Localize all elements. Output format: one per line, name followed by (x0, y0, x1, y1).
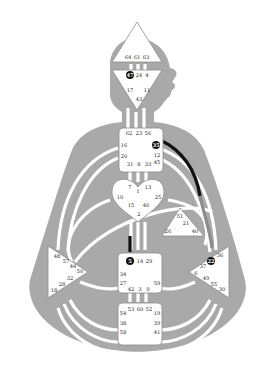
svg-text:5: 5 (128, 258, 132, 264)
svg-text:47: 47 (126, 72, 134, 78)
svg-text:42: 42 (128, 286, 135, 292)
svg-text:36: 36 (217, 252, 224, 258)
svg-text:49: 49 (203, 275, 210, 281)
svg-text:25: 25 (155, 194, 162, 200)
svg-text:21: 21 (183, 220, 190, 226)
svg-text:10: 10 (117, 194, 124, 200)
svg-text:16: 16 (121, 142, 128, 148)
svg-text:28: 28 (59, 281, 66, 287)
head-center[interactable]: 64 61 63 (112, 22, 162, 62)
svg-text:6: 6 (194, 270, 197, 276)
svg-text:51: 51 (177, 213, 184, 219)
svg-text:59: 59 (154, 280, 161, 286)
svg-text:48: 48 (54, 253, 61, 259)
svg-text:15: 15 (128, 202, 135, 208)
svg-text:33: 33 (145, 161, 152, 167)
svg-text:40: 40 (192, 228, 199, 234)
svg-text:11: 11 (144, 87, 151, 93)
svg-text:37: 37 (200, 263, 207, 269)
svg-text:46: 46 (143, 202, 150, 208)
svg-text:60: 60 (137, 306, 144, 312)
svg-text:17: 17 (127, 87, 134, 93)
throat-center[interactable]: 62 23 56 16 35 20 12 31 8 33 45 (119, 128, 163, 172)
svg-text:30: 30 (219, 286, 226, 292)
svg-text:26: 26 (165, 228, 172, 234)
svg-text:9: 9 (146, 286, 149, 292)
svg-text:29: 29 (146, 258, 153, 264)
svg-text:43: 43 (136, 96, 143, 102)
svg-text:39: 39 (154, 320, 161, 326)
svg-text:64: 64 (125, 54, 132, 60)
svg-text:52: 52 (146, 306, 153, 312)
svg-text:41: 41 (154, 329, 161, 335)
svg-text:63: 63 (143, 54, 150, 60)
svg-text:24: 24 (136, 72, 143, 78)
svg-text:61: 61 (134, 54, 141, 60)
svg-text:8: 8 (137, 161, 140, 167)
sacral-center[interactable]: 5 14 29 34 27 59 42 3 9 (118, 253, 162, 293)
svg-text:1: 1 (136, 188, 139, 194)
svg-text:38: 38 (120, 320, 127, 326)
svg-text:50: 50 (77, 268, 84, 274)
svg-text:7: 7 (128, 184, 131, 190)
svg-text:31: 31 (127, 161, 134, 167)
svg-text:2: 2 (137, 211, 140, 217)
svg-text:19: 19 (154, 310, 161, 316)
root-center[interactable]: 53 60 52 54 19 38 39 58 41 (118, 303, 162, 345)
svg-text:57: 57 (63, 258, 70, 264)
svg-text:53: 53 (128, 306, 135, 312)
svg-text:27: 27 (120, 280, 127, 286)
svg-text:56: 56 (145, 130, 152, 136)
svg-text:34: 34 (120, 271, 127, 277)
svg-text:35: 35 (152, 142, 160, 148)
svg-text:12: 12 (154, 152, 161, 158)
svg-text:23: 23 (136, 130, 143, 136)
svg-text:58: 58 (120, 329, 127, 335)
svg-text:14: 14 (137, 258, 144, 264)
svg-text:32: 32 (67, 275, 74, 281)
svg-text:3: 3 (138, 286, 141, 292)
svg-text:22: 22 (207, 258, 215, 264)
svg-text:45: 45 (154, 159, 161, 165)
svg-text:13: 13 (145, 184, 152, 190)
svg-text:54: 54 (120, 310, 127, 316)
svg-text:18: 18 (51, 287, 58, 293)
svg-text:62: 62 (126, 130, 133, 136)
svg-text:20: 20 (121, 153, 128, 159)
svg-text:55: 55 (211, 281, 218, 287)
bodygraph: 64 61 63 47 24 4 17 11 43 62 23 56 16 35… (0, 0, 275, 379)
